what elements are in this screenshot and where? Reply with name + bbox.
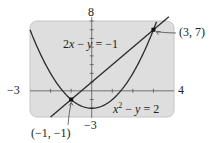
ymax-label: 8 (88, 6, 94, 18)
parabola-equation-label: x2 − y = 2 (113, 102, 159, 115)
intersection-point-marker (69, 98, 73, 102)
intersection-point-marker (151, 28, 155, 32)
xmin-label: −3 (7, 84, 20, 96)
point-label-neg1-neg1: (−1, −1) (31, 127, 71, 139)
ymin-label: −3 (84, 119, 97, 131)
xmax-label: 4 (178, 84, 184, 96)
line-equation-label: 2x − y = −1 (63, 38, 118, 50)
graph-window (0, 0, 214, 143)
point-label-3-7: (3, 7) (179, 26, 205, 38)
